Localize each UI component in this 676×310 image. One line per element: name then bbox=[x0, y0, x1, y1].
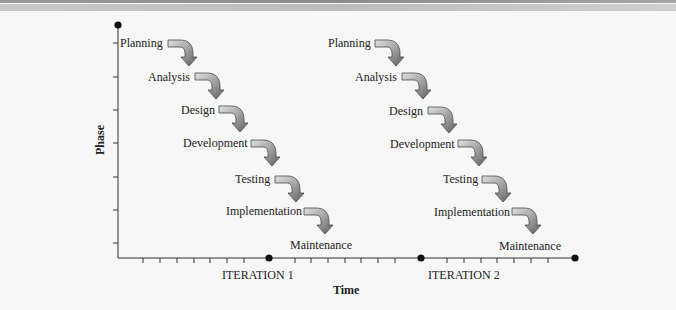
x-axis-ticks bbox=[143, 258, 548, 263]
arrow-icon bbox=[251, 140, 280, 166]
arrow-icon bbox=[375, 40, 404, 66]
phase-label-development: Development bbox=[390, 137, 455, 151]
phase-label-maintenance: Maintenance bbox=[290, 238, 352, 252]
arrow-icon bbox=[482, 176, 511, 202]
phase-label-development: Development bbox=[183, 136, 248, 150]
phase-label-implementation: Implementation bbox=[226, 204, 302, 218]
phase-label-analysis: Analysis bbox=[148, 70, 190, 84]
arrow-icon bbox=[219, 106, 248, 132]
iteration-2-start-dot bbox=[417, 254, 424, 261]
phase-label-design: Design bbox=[181, 103, 215, 117]
iteration-2-label: ITERATION 2 bbox=[428, 268, 500, 283]
y-axis bbox=[113, 21, 122, 258]
phase-label-planning: Planning bbox=[328, 36, 371, 50]
iteration-2-end-dot bbox=[571, 254, 578, 261]
phase-label-maintenance: Maintenance bbox=[499, 239, 561, 253]
phase-label-analysis: Analysis bbox=[355, 70, 397, 84]
phase-label-testing: Testing bbox=[443, 172, 478, 186]
x-axis bbox=[118, 254, 579, 263]
arrow-icon bbox=[458, 140, 487, 166]
iteration-1-end-dot bbox=[265, 254, 272, 261]
arrow-icon bbox=[402, 73, 431, 99]
arrow-icon bbox=[428, 107, 457, 133]
phase-label-design: Design bbox=[389, 104, 423, 118]
y-axis-title: Phase bbox=[93, 125, 108, 155]
iteration-1-label: ITERATION 1 bbox=[222, 268, 294, 283]
x-axis-title: Time bbox=[333, 283, 359, 298]
arrow-icon bbox=[275, 176, 304, 202]
phase-label-planning: Planning bbox=[120, 36, 163, 50]
arrow-icon bbox=[304, 208, 333, 234]
arrow-icon bbox=[195, 73, 224, 99]
arrow-icon bbox=[512, 208, 541, 234]
arrow-icon bbox=[168, 40, 197, 66]
phase-label-testing: Testing bbox=[235, 172, 270, 186]
phase-label-implementation: Implementation bbox=[434, 205, 510, 219]
y-axis-ticks bbox=[113, 43, 118, 243]
y-axis-origin-dot bbox=[114, 21, 121, 28]
